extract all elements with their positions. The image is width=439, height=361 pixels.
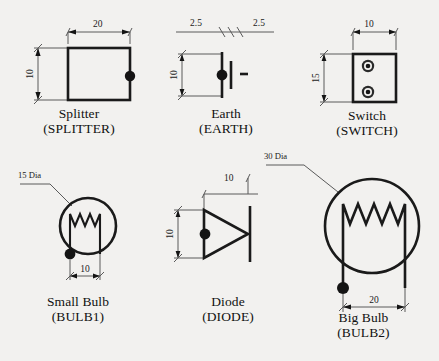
- earth-dim-spacing: 2.5 2.5: [176, 18, 274, 37]
- bulb1-dim-diameter-label: 15 Dia: [18, 170, 41, 180]
- switch-name: Switch: [298, 108, 436, 123]
- bulb1-name: Small Bulb: [0, 294, 156, 309]
- diode-caption: Diode (DIODE): [160, 294, 296, 324]
- splitter-dim-height: 10: [25, 44, 68, 104]
- switch-terminal-top[interactable]: [362, 60, 374, 72]
- splitter-dim-width: 20: [66, 19, 132, 44]
- switch-terminal-bottom[interactable]: [362, 86, 374, 98]
- bulb2-caption: Big Bulb (BULB2): [288, 310, 439, 340]
- splitter-name: Splitter: [4, 106, 154, 121]
- bulb2-dim-lead-spacing: 20: [339, 288, 409, 312]
- bulb1-connection-point[interactable]: [65, 249, 76, 260]
- earth-drawing: 2.5 2.5 10: [156, 6, 296, 106]
- earth-connection-point[interactable]: [217, 70, 228, 81]
- switch-caption: Switch (SWITCH): [298, 108, 436, 138]
- earth-dim-right-label: 2.5: [253, 18, 265, 28]
- earth-dim-height: 10: [169, 50, 222, 100]
- switch-code: (SWITCH): [298, 123, 436, 138]
- bulb1-caption: Small Bulb (BULB1): [0, 294, 156, 324]
- splitter-dim-height-label: 10: [25, 69, 35, 79]
- bulb1-drawing: 15 Dia 10: [0, 162, 156, 302]
- splitter-connection-point[interactable]: [125, 71, 135, 81]
- bulb1-envelope: [60, 198, 116, 254]
- bulb1-filament: [70, 214, 100, 254]
- symbol-library-sheet: 20 10 Splitter (SPLITTER): [0, 0, 439, 361]
- diode-dim-height: 10: [165, 206, 204, 262]
- earth-caption: Earth (EARTH): [156, 106, 296, 136]
- earth-dim-left-label: 2.5: [190, 18, 202, 28]
- switch-dim-height: 15: [311, 50, 353, 106]
- symbol-earth[interactable]: 2.5 2.5 10 Earth (EARTH): [156, 6, 296, 136]
- symbol-splitter[interactable]: 20 10 Splitter (SPLITTER): [4, 6, 154, 136]
- splitter-drawing: 20 10: [4, 6, 154, 106]
- bulb1-code: (BULB1): [0, 309, 156, 324]
- symbol-bulb1[interactable]: 15 Dia 10 Small Bulb (BULB1): [0, 162, 156, 360]
- bulb2-drawing: 30 Dia 20: [288, 146, 439, 318]
- diode-connection-point[interactable]: [200, 229, 211, 240]
- earth-name: Earth: [156, 106, 296, 121]
- splitter-body: [68, 48, 130, 100]
- switch-dim-width-label: 10: [364, 19, 374, 29]
- bulb2-dim-lead-spacing-label: 20: [369, 295, 379, 305]
- diode-dim-width-label: 10: [224, 173, 234, 183]
- symbol-diode[interactable]: 10 10 Diode (DIODE): [160, 168, 296, 360]
- bulb2-name: Big Bulb: [288, 310, 439, 325]
- bulb2-filament: [343, 204, 405, 288]
- splitter-caption: Splitter (SPLITTER): [4, 106, 154, 136]
- bulb2-dim-diameter-label: 30 Dia: [264, 151, 287, 161]
- earth-dim-height-label: 10: [169, 70, 179, 80]
- diode-drawing: 10 10: [160, 168, 296, 298]
- splitter-code: (SPLITTER): [4, 121, 154, 136]
- symbol-bulb2[interactable]: 30 Dia 20 Big Bulb (BULB2): [288, 146, 439, 360]
- diode-name: Diode: [160, 294, 296, 309]
- bulb2-code: (BULB2): [288, 325, 439, 340]
- bulb2-connection-point[interactable]: [337, 282, 349, 294]
- bulb1-dim-lead-spacing-label: 10: [80, 264, 90, 274]
- switch-dim-height-label: 15: [311, 73, 321, 83]
- diode-dim-height-label: 10: [165, 229, 175, 239]
- diode-code: (DIODE): [160, 309, 296, 324]
- switch-dim-width: 10: [351, 19, 398, 50]
- diode-anode-triangle: [204, 210, 248, 258]
- bulb1-dim-diameter: 15 Dia: [18, 170, 72, 206]
- switch-body: [353, 54, 396, 102]
- symbol-switch[interactable]: 10 15: [298, 6, 436, 136]
- splitter-dim-width-label: 20: [93, 19, 103, 29]
- switch-drawing: 10 15: [298, 6, 436, 106]
- earth-code: (EARTH): [156, 121, 296, 136]
